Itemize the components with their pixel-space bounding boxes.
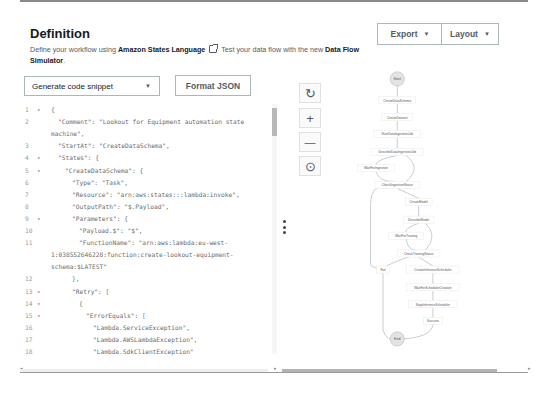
line-number: 3 — [25, 142, 37, 149]
fold-toggle-icon[interactable]: ▾ — [37, 106, 41, 113]
line-number: 11 — [25, 239, 37, 246]
page-title: Definition — [30, 26, 90, 41]
layout-button[interactable]: Layout ▼ — [441, 23, 499, 45]
code-line: 3"StartAt": "CreateDataSchema", — [20, 142, 270, 154]
fold-toggle-icon[interactable]: ▾ — [37, 300, 41, 307]
fold-toggle-icon[interactable]: ▾ — [37, 167, 41, 174]
code-line: schema:$LATEST" — [20, 263, 270, 275]
graph-node-n9[interactable]: WaitForTraining — [389, 232, 424, 239]
top-divider — [20, 0, 528, 2]
svg-text:CreateDataSchema: CreateDataSchema — [383, 99, 411, 103]
zoom-out-button[interactable]: — — [299, 132, 321, 152]
svg-text:StopInferenceScheduler: StopInferenceScheduler — [416, 303, 451, 307]
line-number: 1 — [25, 106, 37, 113]
fold-toggle-icon[interactable]: ▾ — [37, 312, 41, 319]
page-description: Define your workflow using Amazon States… — [30, 44, 360, 66]
fold-toggle-icon[interactable]: ▾ — [37, 154, 41, 161]
code-line: 11"FunctionName": "arn:aws:lambda:eu-wes… — [20, 239, 270, 251]
code-text: "Payload.$": "$", — [79, 227, 142, 234]
scroll-right-arrow-icon[interactable]: ▸ — [528, 365, 531, 371]
line-number: 10 — [25, 227, 37, 234]
graph-node-n8[interactable]: DescribeModel — [403, 216, 434, 223]
line-number: 7 — [25, 191, 37, 198]
zoom-in-button[interactable]: + — [299, 108, 321, 128]
code-line: 8"OutputPath": "$.Payload", — [20, 203, 270, 215]
line-number: 18 — [25, 348, 37, 355]
svg-text:Success: Success — [427, 319, 439, 323]
graph-node-n11[interactable]: CreateInferenceScheduler — [407, 266, 459, 273]
graph-node-n10[interactable]: CheckTrainingStatus — [397, 250, 440, 257]
code-text: 1:038552646228:function:create-lookout-e… — [51, 251, 234, 258]
svg-text:CheckTrainingStatus: CheckTrainingStatus — [404, 252, 434, 256]
svg-text:CheckIngestionStatus: CheckIngestionStatus — [382, 183, 413, 187]
caret-down-icon: ▼ — [145, 83, 151, 89]
svg-text:CreateInferenceScheduler: CreateInferenceScheduler — [414, 268, 452, 272]
code-text: "FunctionName": "arn:aws:lambda:eu-west- — [79, 239, 228, 246]
graph-node-n6[interactable]: CheckIngestionStatus — [375, 181, 420, 188]
line-number: 5 — [25, 167, 37, 174]
code-line: 15▾"ErrorEquals": [ — [20, 312, 270, 324]
line-number: 16 — [25, 324, 37, 331]
svg-text:WaitForTraining: WaitForTraining — [395, 234, 418, 238]
graph-node-n1[interactable]: CreateDataSchema — [379, 97, 416, 104]
code-text: "Lambda.ServiceException", — [93, 324, 190, 331]
graph-node-n2[interactable]: CreateDataset — [382, 114, 413, 121]
line-number: 12 — [25, 275, 37, 282]
code-text: { — [79, 300, 83, 307]
graph-node-fail[interactable]: Fail — [376, 266, 389, 273]
code-line: 4▾"States": { — [20, 154, 270, 166]
asl-link[interactable]: Amazon States Language — [118, 45, 205, 54]
code-text: "Lambda.SdkClientException" — [93, 348, 194, 355]
code-editor[interactable]: 1▾{2"Comment": "Lookout for Equipment au… — [20, 102, 278, 357]
workflow-graph-svg: StartCreateDataSchemaCreateDatasetStartD… — [340, 70, 540, 355]
graph-node-n14[interactable]: Success — [423, 318, 442, 325]
svg-text:CreateModel: CreateModel — [410, 200, 429, 204]
svg-text:WaitForIngestion: WaitForIngestion — [364, 166, 388, 170]
code-text: "Lambda.AWSLambdaException", — [93, 336, 197, 343]
bottom-divider — [20, 372, 528, 373]
minus-icon: — — [305, 136, 316, 148]
line-number: 8 — [25, 203, 37, 210]
graph-node-n3[interactable]: StartDataIngestionJob — [374, 131, 420, 138]
code-text: "Resource": "arn:aws:states:::lambda:inv… — [72, 191, 240, 198]
code-line: 7"Resource": "arn:aws:states:::lambda:in… — [20, 191, 270, 203]
graph-node-n5[interactable]: WaitForIngestion — [358, 164, 395, 171]
code-text: "Type": "Task", — [72, 179, 128, 186]
refresh-graph-button[interactable]: ↻ — [299, 83, 321, 103]
line-number: 6 — [25, 179, 37, 186]
graph-node-n4[interactable]: DescribeDataIngestionJob — [371, 148, 423, 155]
external-link-icon[interactable] — [209, 45, 217, 53]
code-text: }, — [72, 275, 79, 282]
editor-scroll-thumb[interactable] — [272, 108, 277, 136]
code-line: 1▾{ — [20, 106, 270, 118]
code-line: 2"Comment": "Lookout for Equipment autom… — [20, 118, 270, 130]
code-text: "Parameters": { — [72, 215, 128, 222]
code-line: 10"Payload.$": "$", — [20, 227, 270, 239]
format-json-button[interactable]: Format JSON — [175, 75, 251, 96]
scroll-right-arrow-icon[interactable]: ▸ — [274, 365, 277, 371]
svg-text:End: End — [394, 337, 400, 341]
code-line: 5▾"CreateDataSchema": { — [20, 167, 270, 179]
code-text: "Comment": "Lookout for Equipment automa… — [58, 118, 244, 125]
code-text: "OutputPath": "$.Payload", — [72, 203, 169, 210]
graph-node-end[interactable]: End — [390, 332, 404, 346]
workflow-graph[interactable]: StartCreateDataSchemaCreateDatasetStartD… — [340, 70, 540, 355]
graph-node-n13[interactable]: StopInferenceScheduler — [409, 301, 457, 308]
fold-toggle-icon[interactable]: ▾ — [37, 288, 41, 295]
graph-node-n7[interactable]: CreateModel — [405, 198, 432, 205]
code-line: 16"Lambda.ServiceException", — [20, 324, 270, 336]
code-text: "StartAt": "CreateDataSchema", — [58, 142, 170, 149]
fold-toggle-icon[interactable]: ▾ — [37, 215, 41, 222]
graph-node-start[interactable]: Start — [390, 72, 404, 86]
line-number: 2 — [25, 118, 37, 125]
graph-node-n12[interactable]: WaitForSchedulerCreation — [407, 284, 459, 291]
code-text: machine", — [51, 130, 85, 137]
svg-text:DescribeDataIngestionJob: DescribeDataIngestionJob — [379, 150, 417, 154]
code-text: "ErrorEquals": [ — [86, 312, 146, 319]
editor-vertical-scrollbar[interactable] — [272, 104, 277, 354]
generate-code-snippet-select[interactable]: Generate code snippet ▼ — [24, 76, 160, 96]
panel-resize-handle[interactable] — [283, 220, 286, 234]
svg-text:StartDataIngestionJob: StartDataIngestionJob — [381, 132, 413, 136]
export-button[interactable]: Export ▼ — [377, 23, 443, 45]
center-graph-button[interactable]: ⊙ — [299, 156, 321, 176]
